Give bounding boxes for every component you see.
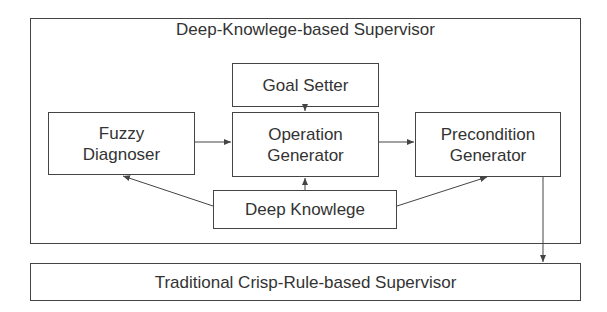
edge-deep-to-fuzzy (123, 176, 213, 206)
edges-layer (0, 0, 607, 312)
edge-deep-to-precondition (397, 177, 487, 206)
